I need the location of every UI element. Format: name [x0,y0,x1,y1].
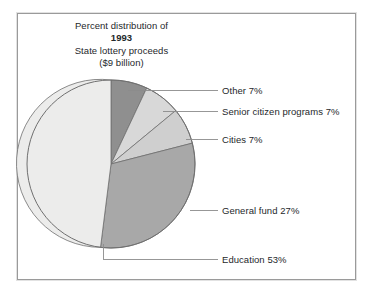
pie-chart [0,0,372,295]
pie-label-education: Education 53% [222,254,287,265]
pie-slices [16,79,195,248]
pie-label-cities: Cities 7% [222,134,263,145]
pie-label-other: Other 7% [222,85,263,96]
pie-label-senior-citizen-programs: Senior citizen programs 7% [222,106,339,117]
pie-label-general-fund: General fund 27% [222,205,299,216]
chart-page: Percent distribution of 1993 State lotte… [0,0,372,295]
pie-slice-education[interactable] [16,79,111,247]
